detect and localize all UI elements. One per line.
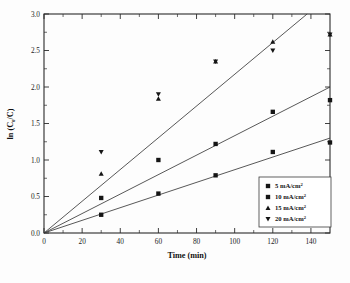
x-tick-label: 100 [229, 237, 240, 246]
legend-label-20: 20 mA/cm2 [275, 215, 307, 222]
data-point-square [156, 158, 160, 162]
y-tick-label: 1.0 [31, 156, 40, 165]
y-tick-label: 2.5 [31, 46, 40, 55]
y-tick-label: 0.0 [31, 229, 40, 238]
svg-text:ln (C0/C): ln (C0/C) [6, 108, 16, 139]
legend-marker-square [266, 184, 270, 188]
y-axis-title: ln (C0/C) [6, 108, 16, 139]
legend-label-5: 5 mA/cm2 [275, 182, 303, 189]
data-point-square [156, 191, 160, 195]
x-tick-label: 60 [155, 237, 163, 246]
y-tick-label: 2.0 [31, 83, 40, 92]
x-tick-label: 140 [305, 237, 316, 246]
y-tick-label: 1.5 [31, 119, 40, 128]
data-point-square [328, 140, 332, 144]
x-tick-label: 120 [267, 237, 278, 246]
x-axis-title: Time (min) [167, 251, 206, 260]
data-point-square [213, 173, 217, 177]
data-point-square [99, 196, 103, 200]
y-tick-label: 3.0 [31, 10, 40, 19]
x-tick-label: 0 [42, 237, 46, 246]
y-tick-label: 0.5 [31, 192, 40, 201]
chart-background [0, 0, 350, 283]
figure-container: 0.00.51.01.52.02.53.0 020406080100120140… [0, 0, 350, 283]
x-tick-label: 20 [78, 237, 86, 246]
legend-label-15: 15 mA/cm2 [275, 204, 307, 211]
data-point-square [328, 98, 332, 102]
data-point-square [271, 110, 275, 114]
kinetics-scatter-chart: 0.00.51.01.52.02.53.0 020406080100120140… [0, 0, 350, 283]
data-point-square [99, 213, 103, 217]
x-tick-label: 40 [117, 237, 125, 246]
x-tick-label: 80 [193, 237, 201, 246]
legend-marker-square [266, 195, 270, 199]
data-point-square [271, 150, 275, 154]
legend-label-10: 10 mA/cm2 [275, 193, 307, 200]
data-point-square [213, 142, 217, 146]
chart-legend: 5 mA/cm210 mA/cm215 mA/cm220 mA/cm2 [259, 177, 331, 227]
